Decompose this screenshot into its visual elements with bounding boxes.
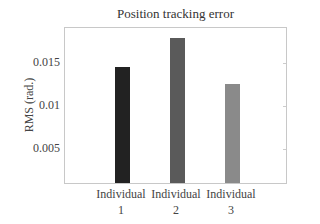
x-tick-label: Individual1 <box>91 186 151 218</box>
bar-1 <box>115 67 130 183</box>
bar-3 <box>225 84 240 183</box>
y-tick-label: 0.015 <box>33 54 60 69</box>
y-tick-label: 0.01 <box>39 97 60 112</box>
y-tick-mark <box>283 106 286 107</box>
x-tick-label: Individual3 <box>201 186 261 218</box>
y-axis-label: RMS (rad.) <box>22 78 37 133</box>
chart-title: Position tracking error <box>64 6 287 22</box>
y-tick-mark <box>283 63 286 64</box>
bar-2 <box>170 38 185 183</box>
plot-area <box>64 27 287 184</box>
y-tick-mark <box>283 149 286 150</box>
y-tick-label: 0.005 <box>33 140 60 155</box>
x-tick-label: Individual2 <box>146 186 206 218</box>
